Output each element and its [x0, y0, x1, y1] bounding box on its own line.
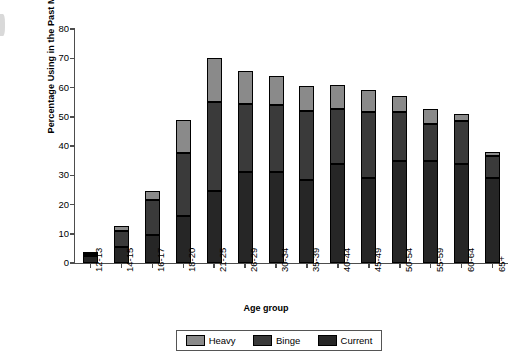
x-axis-tick-label: 16-17 — [155, 248, 166, 272]
legend-item-current: Current — [318, 335, 373, 346]
bar-18-20 — [176, 120, 191, 263]
chart-container: Percentage Using in the Past Month 01020… — [0, 0, 532, 361]
bar-60-64 — [454, 114, 469, 263]
bar-segment-binge — [145, 200, 160, 235]
x-axis-tick-label: 21-25 — [217, 248, 228, 272]
bar-35-39 — [299, 86, 314, 263]
x-axis-tick-mark — [152, 263, 154, 268]
bar-segment-heavy — [392, 96, 407, 112]
bar-segment-binge — [330, 109, 345, 163]
x-axis-tick-mark — [121, 263, 123, 268]
bar-segment-heavy — [238, 71, 253, 103]
bar-segment-binge — [299, 111, 314, 180]
y-axis-tick-mark — [70, 233, 75, 235]
bar-segment-heavy — [145, 191, 160, 200]
y-axis-tick-label: 0 — [41, 262, 69, 263]
x-axis-tick-label: 55-59 — [434, 248, 445, 272]
bar-segment-binge — [485, 156, 500, 178]
bar-segment-heavy — [114, 226, 129, 230]
y-axis-tick-mark — [70, 87, 75, 89]
bar-segment-current — [485, 178, 500, 263]
bar-segment-binge — [207, 102, 222, 191]
bar-segment-heavy — [485, 152, 500, 156]
x-axis-tick-label: 30-34 — [279, 248, 290, 272]
bar-segment-heavy — [330, 85, 345, 110]
x-axis-tick-label: 45-49 — [372, 248, 383, 272]
y-axis-tick-mark — [70, 262, 75, 264]
y-axis-tick-mark — [70, 116, 75, 118]
y-axis-tick-label: 40 — [41, 145, 69, 146]
x-axis-tick-mark — [306, 263, 308, 268]
y-axis-tick-mark — [70, 58, 75, 60]
x-axis-tick-mark — [492, 263, 494, 268]
y-axis-tick-label: 80 — [41, 28, 69, 29]
y-axis-tick-label: 50 — [41, 116, 69, 117]
x-axis-tick-label: 35-39 — [310, 248, 321, 272]
y-axis-tick-label: 70 — [41, 57, 69, 58]
y-axis-tick-mark — [70, 28, 75, 30]
x-axis-tick-label: 65+ — [496, 256, 507, 272]
bar-segment-heavy — [423, 109, 438, 124]
x-axis-tick-mark — [337, 263, 339, 268]
x-axis-tick-mark — [275, 263, 277, 268]
legend-swatch-heavy — [186, 335, 205, 346]
x-axis-tick-mark — [461, 263, 463, 268]
bar-50-54 — [392, 96, 407, 263]
bar-65+ — [485, 152, 500, 263]
bar-55-59 — [423, 109, 438, 263]
bar-40-44 — [330, 85, 345, 263]
y-axis-tick-mark — [70, 204, 75, 206]
bar-21-25 — [207, 58, 222, 263]
bar-segment-binge — [423, 124, 438, 161]
bar-segment-binge — [392, 112, 407, 160]
x-axis-tick-label: 26-29 — [248, 248, 259, 272]
y-axis-tick-label: 20 — [41, 204, 69, 205]
chart-legend: Heavy Binge Current — [176, 330, 382, 351]
legend-label-current: Current — [341, 335, 373, 346]
y-axis-tick-label: 30 — [41, 174, 69, 175]
bar-segment-heavy — [361, 90, 376, 112]
x-axis-tick-mark — [183, 263, 185, 268]
bar-segment-binge — [361, 112, 376, 178]
bar-segment-heavy — [207, 58, 222, 102]
bar-segment-binge — [454, 121, 469, 163]
bar-segment-binge — [269, 105, 284, 172]
y-axis-tick-label: 10 — [41, 233, 69, 234]
x-axis-tick-mark — [368, 263, 370, 268]
x-axis-tick-label: 18-20 — [186, 248, 197, 272]
x-axis-tick-mark — [213, 263, 215, 268]
x-axis-tick-label: 40-44 — [341, 248, 352, 272]
legend-swatch-current — [318, 335, 337, 346]
legend-label-binge: Binge — [276, 335, 300, 346]
bar-segment-binge — [176, 153, 191, 216]
legend-label-heavy: Heavy — [209, 335, 236, 346]
bar-segment-binge — [114, 231, 129, 247]
x-axis-tick-mark — [430, 263, 432, 268]
x-axis-tick-mark — [399, 263, 401, 268]
legend-swatch-binge — [253, 335, 272, 346]
bar-45-49 — [361, 90, 376, 263]
bar-segment-heavy — [269, 76, 284, 105]
x-axis-tick-mark — [244, 263, 246, 268]
bar-segment-heavy — [176, 120, 191, 154]
x-axis-tick-label: 12-13 — [93, 248, 104, 272]
plot-area: 01020304050607080 — [74, 29, 508, 264]
page-edge-artifact — [0, 14, 5, 36]
bar-segment-binge — [238, 104, 253, 173]
x-axis-title: Age group — [0, 303, 532, 313]
x-axis-tick-mark — [90, 263, 92, 268]
bar-30-34 — [269, 76, 284, 263]
legend-item-heavy: Heavy — [186, 335, 236, 346]
x-axis-tick-label: 60-64 — [465, 248, 476, 272]
y-axis-tick-mark — [70, 175, 75, 177]
legend-item-binge: Binge — [253, 335, 300, 346]
x-axis-tick-label: 50-54 — [403, 248, 414, 272]
bar-segment-heavy — [299, 86, 314, 111]
bar-26-29 — [238, 71, 253, 263]
x-axis-tick-label: 14-15 — [124, 248, 135, 272]
bar-segment-heavy — [454, 114, 469, 121]
y-axis-tick-mark — [70, 145, 75, 147]
y-axis-tick-label: 60 — [41, 87, 69, 88]
